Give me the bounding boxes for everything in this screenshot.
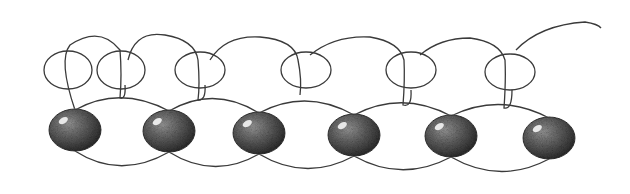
thread-rings [44,51,535,90]
thread-lines [65,22,601,172]
beaded-thread-drawing [0,0,630,194]
bead [143,110,195,152]
thread-ring [485,54,535,90]
bead [523,117,575,159]
thread-ring [386,52,436,88]
bead [49,109,101,151]
beads [49,109,575,159]
bead [425,115,477,157]
thread-ring [281,52,331,88]
thread-ring [175,52,225,88]
bead [233,112,285,154]
bead-illustration [0,0,630,194]
bead [328,114,380,156]
